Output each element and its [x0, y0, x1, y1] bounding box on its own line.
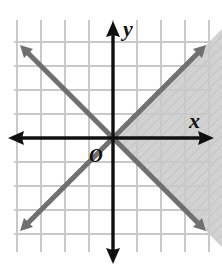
origin-label: O [89, 146, 103, 165]
y-axis-label: y [123, 18, 133, 40]
coordinate-plane-figure: y x O [0, 0, 222, 275]
graph-canvas [0, 0, 222, 275]
y-axis-arrow-up [106, 21, 120, 37]
x-axis-label: x [189, 110, 200, 132]
y-axis-arrow-down [106, 248, 120, 264]
